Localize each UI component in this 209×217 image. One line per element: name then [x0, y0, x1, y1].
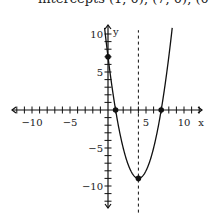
parabola-graph: −10−5510105−5−10xy [0, 0, 209, 217]
x-axis-label: x [198, 117, 204, 128]
x-tick-label: −10 [21, 117, 42, 128]
x-tick-label: 5 [143, 117, 149, 128]
point-vertex [136, 176, 142, 182]
y-tick-label: −10 [82, 181, 103, 192]
y-axis-label: y [112, 26, 119, 37]
y-tick-label: 5 [97, 67, 103, 78]
y-tick-label: −5 [88, 143, 103, 154]
point-y-intercept [105, 54, 111, 60]
x-tick-label: 10 [178, 117, 191, 128]
y-tick-label: 10 [90, 29, 103, 40]
point-x-intercept [158, 107, 164, 113]
point-x-intercept [113, 107, 119, 113]
x-tick-label: −5 [63, 117, 78, 128]
